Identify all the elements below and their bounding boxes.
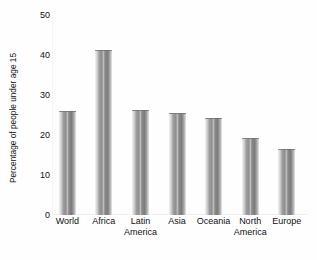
x-tick-label-line2: America <box>227 227 273 238</box>
x-tick-label-line1: Latin <box>131 216 151 226</box>
y-axis-line <box>52 15 53 215</box>
bar-top-edge <box>59 111 76 112</box>
x-tick-label-line1: North <box>239 216 261 226</box>
bar-top-edge <box>242 138 259 139</box>
bar <box>95 50 112 215</box>
plot-area <box>52 15 308 215</box>
bar <box>169 113 186 215</box>
y-tick-label: 10 <box>22 170 50 180</box>
x-tick-label-line1: Oceania <box>197 216 231 226</box>
bar-top-edge <box>205 118 222 119</box>
x-tick-label-line1: World <box>56 216 79 226</box>
x-tick-label-line1: Africa <box>92 216 115 226</box>
x-tick-label-line1: Europe <box>272 216 301 226</box>
x-axis-tick-labels: WorldAfricaLatinAmericaAsiaOceaniaNorthA… <box>52 216 308 256</box>
y-tick-label: 30 <box>22 90 50 100</box>
y-tick-label: 50 <box>22 10 50 20</box>
bar-top-edge <box>169 113 186 114</box>
y-tick-label: 40 <box>22 50 50 60</box>
bar <box>278 149 295 215</box>
y-axis-title-text: Percentage of people under age 15 <box>8 53 18 183</box>
bar <box>205 118 222 215</box>
bar-top-edge <box>278 149 295 150</box>
x-tick-label-line2: America <box>117 227 163 238</box>
bar <box>59 111 76 215</box>
bar-top-edge <box>95 50 112 51</box>
bar <box>132 110 149 215</box>
bar-chart: Percentage of people under age 15 010203… <box>0 0 317 260</box>
y-tick-label: 20 <box>22 130 50 140</box>
x-tick-label: Europe <box>264 216 310 227</box>
bar-top-edge <box>132 110 149 111</box>
bar <box>242 138 259 215</box>
x-tick-label-line1: Asia <box>168 216 186 226</box>
